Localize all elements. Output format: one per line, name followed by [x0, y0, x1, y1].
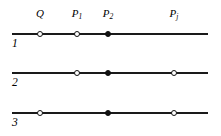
marker-row3-Pj: [171, 110, 177, 116]
marker-row3-P2: [105, 110, 111, 116]
marker-row1-Q: [37, 31, 43, 37]
point-label-base: Q: [36, 7, 44, 19]
point-label-subscript: j: [176, 12, 178, 21]
point-label-P1: P1: [72, 8, 82, 19]
point-label-Pj: Pj: [170, 8, 179, 19]
line-number-label-1: 1: [12, 38, 18, 50]
marker-row1-P2: [105, 31, 111, 37]
number-line-diagram: QP1P2Pj123: [0, 0, 221, 136]
line-number-label-3: 3: [12, 117, 18, 129]
point-label-Q: Q: [36, 8, 44, 19]
marker-row2-P1: [74, 70, 80, 76]
point-label-subscript: 1: [78, 12, 82, 21]
marker-row3-Q: [37, 110, 43, 116]
marker-row2-Pj: [171, 70, 177, 76]
marker-row1-P1: [74, 31, 80, 37]
point-label-base: P: [72, 7, 79, 19]
line-number-label-2: 2: [12, 77, 18, 89]
point-label-base: P: [170, 7, 177, 19]
point-label-base: P: [103, 7, 110, 19]
point-label-subscript: 2: [109, 12, 113, 21]
point-label-P2: P2: [103, 8, 113, 19]
marker-row2-P2: [105, 70, 111, 76]
